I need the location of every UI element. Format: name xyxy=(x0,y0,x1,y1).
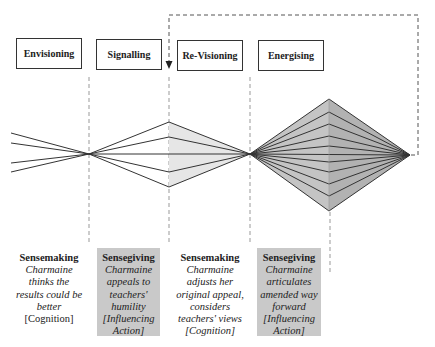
small-diamond xyxy=(89,122,250,187)
caption-line: amended way xyxy=(257,289,321,301)
caption-line: forward xyxy=(257,301,321,313)
caption-line: Charmaine xyxy=(97,264,160,276)
caption-line: Action] xyxy=(257,325,321,337)
phase-label: Envisioning xyxy=(24,48,75,59)
caption-title: Sensemaking xyxy=(14,252,84,264)
phase-box-signalling: Signalling xyxy=(96,39,162,70)
phase-label: Re-Visioning xyxy=(182,50,237,61)
arrow-down-icon xyxy=(166,61,173,69)
caption-line: [Influencing xyxy=(257,313,321,325)
caption-line: results could be xyxy=(14,289,84,301)
phase-label: Energising xyxy=(268,50,314,61)
caption-line: better xyxy=(14,301,84,313)
large-diamond xyxy=(250,99,410,211)
caption-line: considers xyxy=(174,301,246,313)
caption-line: articulates xyxy=(257,276,321,288)
caption-line: Charmaine xyxy=(174,264,246,276)
caption-sensemaking-1: Sensemaking Charmaine thinks the results… xyxy=(14,248,84,336)
caption-line: Charmaine xyxy=(14,264,84,276)
phase-box-re-visioning: Re-Visioning xyxy=(177,40,243,71)
caption-title: Sensegiving xyxy=(257,252,321,264)
phase-label: Signalling xyxy=(108,49,151,60)
caption-line: teachers' views xyxy=(174,313,246,325)
caption-line: original appeal, xyxy=(174,289,246,301)
caption-title: Sensegiving xyxy=(97,252,160,264)
converging-lines xyxy=(11,133,89,172)
phase-box-envisioning: Envisioning xyxy=(16,38,82,69)
caption-line: humility xyxy=(97,301,160,313)
caption-sensegiving-1: Sensegiving Charmaine appeals to teacher… xyxy=(97,248,160,336)
caption-line: appeals to xyxy=(97,276,160,288)
caption-line: adjusts her xyxy=(174,276,246,288)
caption-sensegiving-2: Sensegiving Charmaine articulates amende… xyxy=(257,248,321,336)
caption-line: [Cognition] xyxy=(14,313,84,325)
caption-sensemaking-2: Sensemaking Charmaine adjusts her origin… xyxy=(174,248,246,336)
caption-line: [Cognition] xyxy=(174,325,246,337)
caption-line: [Influencing xyxy=(97,313,160,325)
caption-line: Charmaine xyxy=(257,264,321,276)
phase-box-energising: Energising xyxy=(258,40,324,71)
caption-line: Action] xyxy=(97,325,160,337)
caption-line: teachers' xyxy=(97,289,160,301)
caption-title: Sensemaking xyxy=(174,252,246,264)
caption-line: thinks the xyxy=(14,276,84,288)
